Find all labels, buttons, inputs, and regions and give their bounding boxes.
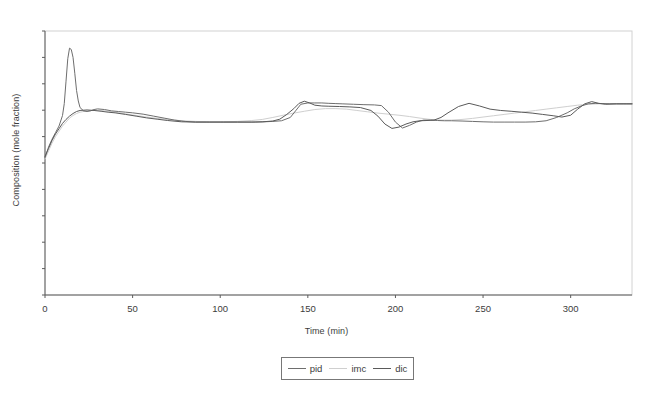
legend-swatch-pid [288, 368, 306, 369]
legend-item-dic[interactable]: dic [373, 364, 407, 374]
legend-swatch-dic [373, 368, 391, 369]
legend-label-dic: dic [395, 364, 407, 374]
legend-label-imc: imc [351, 364, 366, 374]
legend-swatch-imc [329, 368, 347, 369]
x-axis-label: Time (min) [0, 326, 653, 336]
plot-area [0, 0, 653, 399]
chart-figure: Composition (mole fraction) 00.020.040.0… [0, 0, 653, 399]
legend-item-imc[interactable]: imc [329, 364, 366, 374]
series-line-pid [45, 48, 632, 158]
chart-legend: pidimcdic [281, 357, 414, 380]
legend-label-pid: pid [310, 364, 323, 374]
legend-item-pid[interactable]: pid [288, 364, 323, 374]
series-line-imc [45, 104, 632, 159]
plot-border [45, 31, 632, 295]
